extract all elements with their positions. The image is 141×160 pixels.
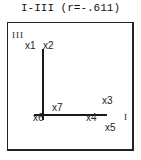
x-axis-label: I bbox=[124, 113, 128, 122]
y-axis-label: III bbox=[12, 31, 24, 40]
point-x3: x3 bbox=[102, 96, 113, 106]
point-x6: x6 bbox=[33, 113, 44, 123]
chart-title: I-III (r=-.611) bbox=[0, 2, 141, 14]
vertical-axis-line bbox=[42, 49, 44, 120]
point-x7: x7 bbox=[52, 103, 63, 113]
point-x2: x2 bbox=[43, 41, 54, 51]
point-x1: x1 bbox=[25, 41, 36, 51]
point-x4: x4 bbox=[86, 113, 97, 123]
point-x5: x5 bbox=[105, 123, 116, 133]
